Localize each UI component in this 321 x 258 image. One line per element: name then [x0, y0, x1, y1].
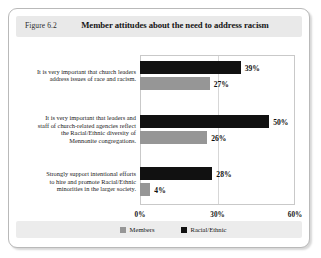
x-tick-30pct: 30% [210, 211, 224, 219]
legend-label-2: Racial/Ethnic [191, 226, 227, 233]
figure-frame: Figure 6.2 Member attitudes about the ne… [8, 8, 310, 248]
figure-title-band: Figure 6.2 Member attitudes about the ne… [16, 16, 302, 37]
members-swatch [120, 227, 126, 233]
legend-items: MembersRacial/Ethnic [16, 221, 302, 238]
category-label-1-line-1: It is very important that church leaders [20, 68, 136, 76]
chart-plot-region: 39%27%50%26%28%4% It is very important t… [9, 39, 311, 247]
chart-legend: MembersRacial/Ethnic [16, 221, 302, 238]
category-label-1-line-2: address issues of race and racism. [20, 75, 136, 83]
category-label-1: It is very important that church leaders… [20, 68, 136, 83]
bar-value-members-2: 26% [211, 135, 226, 143]
category-label-2-line-4: Mennonite congregations. [20, 137, 136, 145]
category-label-3: Strongly support intentional effortsto h… [20, 170, 136, 193]
bar-value-racial-ethnic-2: 50% [273, 119, 288, 127]
bar-members-3 [140, 183, 150, 196]
bar-members-2 [140, 131, 207, 144]
legend-label-1: Members [130, 226, 155, 233]
gridline-30-percent [218, 56, 219, 204]
category-label-3-line-3: minorities in the larger society. [20, 185, 136, 193]
bar-value-members-1: 27% [214, 81, 229, 89]
legend-item-2: Racial/Ethnic [181, 226, 227, 233]
bar-value-racial-ethnic-3: 28% [216, 171, 231, 179]
bar-value-racial-ethnic-1: 39% [245, 65, 260, 73]
bar-members-1 [140, 77, 210, 90]
figure-title: Member attitudes about the need to addre… [16, 20, 302, 30]
legend-item-1: Members [120, 226, 155, 233]
bar-racial-ethnic-1 [140, 61, 241, 74]
bar-racial-ethnic-3 [140, 167, 212, 180]
category-label-2-line-2: staff of church-related agencies reflect [20, 122, 136, 130]
category-label-2: It is very important that leaders andsta… [20, 114, 136, 144]
category-label-3-line-1: Strongly support intentional efforts [20, 170, 136, 178]
bar-value-members-3: 4% [154, 187, 165, 195]
category-label-2-line-1: It is very important that leaders and [20, 114, 136, 122]
bar-racial-ethnic-2 [140, 115, 269, 128]
x-tick-60pct: 60% [288, 211, 302, 219]
racial-ethnic-swatch [181, 227, 187, 233]
category-label-2-line-3: the Racial/Ethnic diversity of [20, 129, 136, 137]
x-tick-0pct: 0% [135, 211, 146, 219]
category-label-3-line-2: to hire and promote Racial/Ethnic [20, 178, 136, 186]
